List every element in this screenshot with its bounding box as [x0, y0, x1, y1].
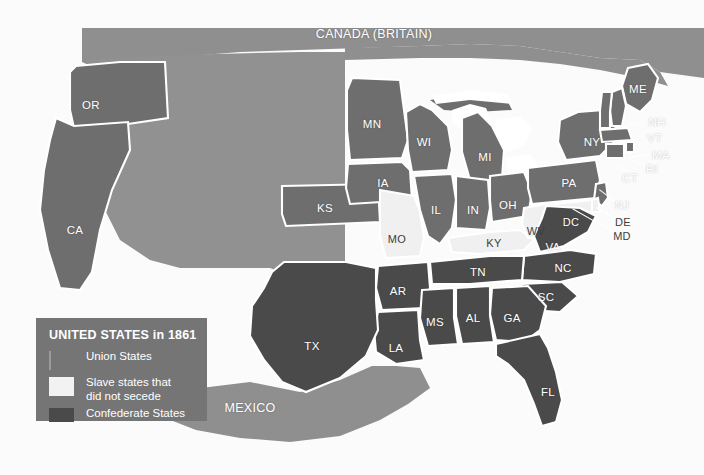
legend-label-confederate: Confederate States — [86, 407, 185, 421]
legend-label-border-slave: Slave states thatdid not secede — [86, 376, 171, 403]
legend-swatch-confederate — [49, 408, 74, 422]
legend-label-border-slave-line2: did not secede — [86, 390, 161, 402]
legend-swatch-union — [49, 351, 74, 370]
legend-title: UNITED STATES in 1861 — [49, 328, 197, 342]
map-canvas: CANADA (BRITAIN) MEXICO ORCAMNWIMIIAILIN… — [0, 0, 704, 475]
map-legend: UNITED STATES in 1861 Union States Slave… — [36, 318, 207, 421]
legend-swatch-border-slave — [49, 377, 74, 396]
legend-label-union: Union States — [86, 350, 152, 364]
legend-label-border-slave-line1: Slave states that — [86, 376, 171, 388]
